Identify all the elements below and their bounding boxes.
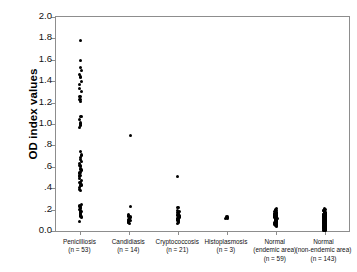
data-point <box>128 222 131 225</box>
data-point <box>323 207 326 210</box>
x-axis-category-subtitle: (non-endemic area) <box>296 246 352 254</box>
data-point <box>176 222 179 225</box>
data-point <box>79 100 82 103</box>
data-point <box>79 39 82 42</box>
scatter-plot-figure: OD index values 0.0.2.4.6.81.01.21.41.61… <box>0 0 357 272</box>
data-point <box>176 175 179 178</box>
x-axis-category-name: Penicilliosis <box>63 238 96 245</box>
x-axis-tick-label: Normal(non-endemic area)(n = 143) <box>296 238 352 263</box>
data-point <box>275 225 278 228</box>
x-axis-tick-mark <box>129 231 130 235</box>
x-axis-tick-label: Cryptococcosis(n = 21) <box>156 238 199 255</box>
data-point <box>80 215 83 218</box>
x-axis-category-name: Candidiasis <box>112 238 145 245</box>
x-axis-tick-mark <box>227 231 228 235</box>
y-axis-tick-label: .8 <box>44 138 52 149</box>
y-axis-tick-label: 1.2 <box>39 96 52 107</box>
data-point <box>226 217 229 220</box>
x-axis-tick-mark <box>178 231 179 235</box>
data-point <box>79 59 82 62</box>
x-axis-category-name: Normal <box>313 238 334 245</box>
x-axis-category-subtitle: (endemic area) <box>253 246 296 254</box>
y-axis-tick-label: .6 <box>44 160 52 171</box>
x-axis-tick-mark <box>80 231 81 235</box>
y-axis-tick-label: 2.0 <box>39 10 52 21</box>
data-point <box>129 205 132 208</box>
y-axis-tick-label: 0.0 <box>39 224 52 235</box>
y-axis-tick-label: 1.6 <box>39 53 52 64</box>
data-point <box>78 126 81 129</box>
x-axis-tick-mark <box>276 231 277 235</box>
data-point <box>80 69 83 72</box>
data-point <box>78 83 81 86</box>
data-point <box>79 189 82 192</box>
y-axis-title: OD index values <box>27 34 39 194</box>
x-axis-tick-label: Histoplasmosis(n = 3) <box>204 238 247 255</box>
x-axis-category-count: (n = 21) <box>156 246 199 254</box>
x-axis-category-count: (n = 59) <box>253 255 296 263</box>
data-point <box>322 213 325 216</box>
x-axis-category-count: (n = 14) <box>112 246 145 254</box>
x-axis-category-name: Normal <box>264 238 285 245</box>
y-axis-tick-label: .4 <box>44 181 52 192</box>
data-point <box>80 90 83 93</box>
plot-area: 0.0.2.4.6.81.01.21.41.61.82.0 <box>56 17 349 231</box>
data-point <box>323 223 326 226</box>
x-axis-tick-label: Candidiasis(n = 14) <box>112 238 145 255</box>
y-axis-tick-label: .2 <box>44 203 52 214</box>
y-axis-tick-label: 1.0 <box>39 117 52 128</box>
x-axis-category-name: Histoplasmosis <box>204 238 247 245</box>
y-axis-tick-label: 1.4 <box>39 74 52 85</box>
data-point <box>79 75 82 78</box>
x-axis-category-count: (n = 53) <box>63 246 96 254</box>
data-point <box>78 220 81 223</box>
x-axis-tick-label: Normal(endemic area)(n = 59) <box>253 238 296 263</box>
x-axis-category-count: (n = 3) <box>204 246 247 254</box>
y-axis-tick-label: 1.8 <box>39 31 52 42</box>
data-point <box>323 228 326 231</box>
x-axis-category-count: (n = 143) <box>296 255 352 263</box>
data-point <box>129 134 132 137</box>
x-axis-category-name: Cryptococcosis <box>156 238 199 245</box>
plot-frame: 0.0.2.4.6.81.01.21.41.61.82.0 <box>55 16 350 232</box>
x-axis-tick-label: Penicilliosis(n = 53) <box>63 238 96 255</box>
x-axis-tick-mark <box>325 231 326 235</box>
data-point <box>322 220 325 223</box>
